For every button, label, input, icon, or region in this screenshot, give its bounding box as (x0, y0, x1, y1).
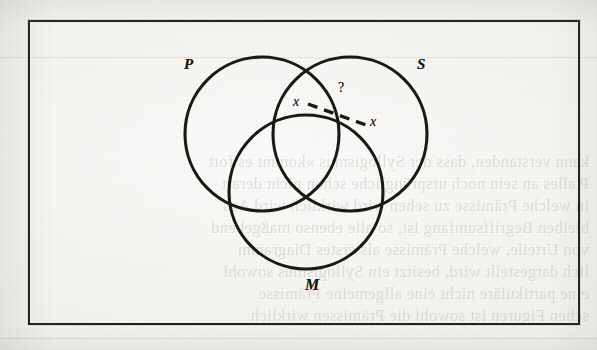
figure-frame (28, 20, 580, 325)
circle-label-P: P (184, 56, 193, 73)
circle-label-S: S (417, 56, 425, 73)
annotation-question-mark: ? (338, 80, 344, 96)
annotation-x-right: x (370, 114, 376, 130)
annotation-x-left: x (293, 94, 299, 110)
circle-label-M: M (305, 276, 319, 294)
